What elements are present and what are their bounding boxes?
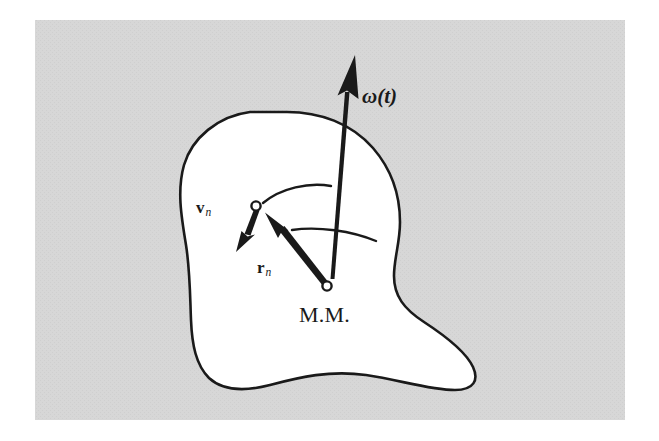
mass-center-label-text: M.M. — [299, 302, 350, 327]
omega-label-text: ω(t) — [362, 84, 397, 108]
radius-subscript: n — [266, 266, 272, 278]
rigid-body-diagram: ω(t) vn rn M.M. — [0, 0, 659, 441]
omega-label: ω(t) — [362, 84, 397, 108]
radius-symbol: r — [257, 258, 265, 277]
mass-center-label: M.M. — [299, 302, 350, 327]
velocity-symbol: v — [196, 198, 205, 217]
mass-center-marker — [322, 281, 331, 290]
velocity-subscript: n — [206, 206, 212, 218]
figure-root: ω(t) vn rn M.M. — [0, 0, 659, 441]
point-n-marker — [251, 201, 260, 210]
